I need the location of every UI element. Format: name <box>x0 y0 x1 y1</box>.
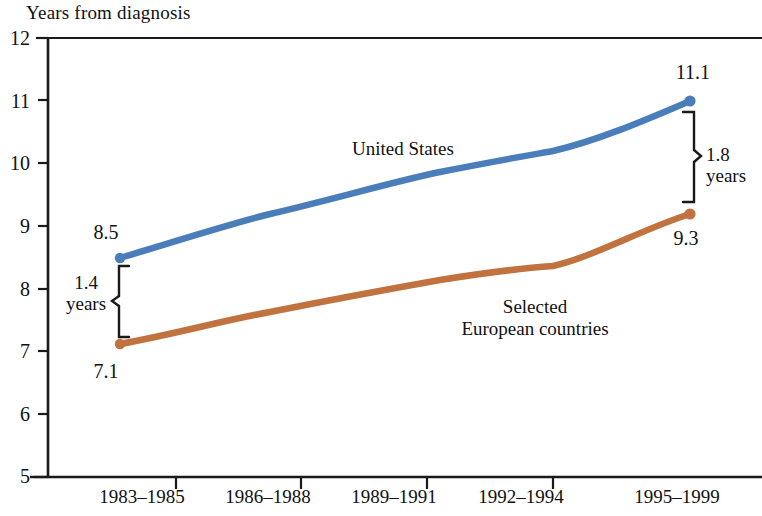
y-axis-ticks <box>34 38 48 477</box>
bracket-gap-left <box>112 266 129 337</box>
bracket-gap-right <box>683 112 701 202</box>
series-line-united-states <box>115 95 696 263</box>
axis-lines <box>30 38 762 477</box>
chart-canvas <box>0 0 762 516</box>
series-line-european-countries <box>115 208 696 349</box>
line-chart: Years from diagnosis 12 11 10 9 8 7 6 5 … <box>0 0 762 516</box>
x-axis-ticks <box>176 477 553 489</box>
